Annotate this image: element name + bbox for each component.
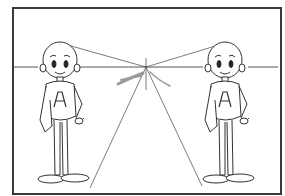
- perspective-drawing: [0, 0, 285, 196]
- pencil-smudge: [118, 72, 170, 86]
- character-right: [203, 42, 254, 183]
- character-left: [38, 42, 89, 183]
- perspective-lines: [64, 44, 222, 188]
